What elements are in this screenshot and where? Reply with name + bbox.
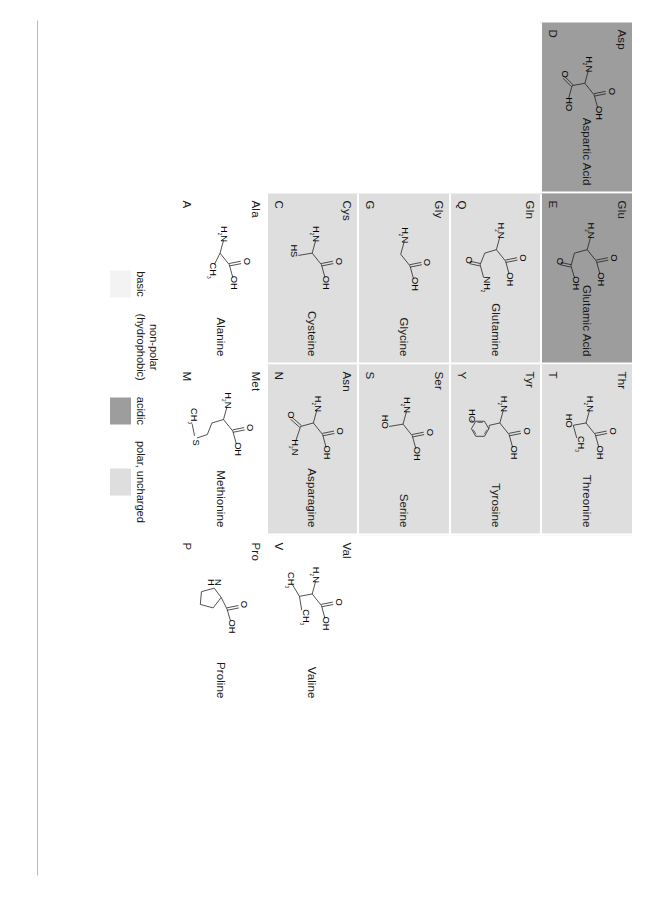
amino-acid-chart-sheet: AspDAspartic AcidH2NOOHOHOGluEGlutamic A… [0, 0, 650, 909]
amino-acid-cell-w[interactable]: TrpWTryptophanH2NOOHHN [172, 364, 174, 535]
svg-text:H2N: H2N [401, 397, 413, 413]
legend-swatch-acidic [110, 397, 131, 424]
svg-text:OH: OH [227, 619, 237, 633]
amino-acid-one-letter-code: T [547, 371, 559, 378]
amino-acid-cell-s[interactable]: SerSSerineH2NOOHHO [357, 364, 449, 535]
amino-acid-cell-p[interactable]: ProPProlineOOHNH [174, 535, 266, 706]
svg-text:H2N: H2N [311, 395, 323, 411]
amino-acid-full-name: Arginine [172, 826, 174, 869]
amino-acid-cell-h[interactable]: HisHHistidineH2NOOHNNH [172, 535, 174, 706]
amino-acid-cell-k[interactable]: LysKLysineH2NOOHH2N [170, 22, 172, 193]
amino-acid-cell-l[interactable]: LeuLLeucineH2NOOHCH3CH3 [172, 193, 174, 364]
amino-acid-cell-i[interactable]: IleIIsoleucineH2NOOHCH3CH3 [170, 193, 172, 364]
amino-acid-cell-a[interactable]: AlaAAlanineH2NOOHCH3 [174, 193, 266, 364]
svg-text:H2N: H2N [310, 566, 322, 582]
amino-acid-cell-c[interactable]: CysCCysteineH2NOOHHS [266, 193, 358, 364]
amino-acid-cell-r[interactable]: ArgRArginineH2NOOHNHNH2HN [172, 706, 174, 877]
legend-item-polar[interactable]: polar, uncharged [110, 440, 148, 522]
amino-acid-abbr: Met [250, 371, 262, 391]
amino-acid-cell-empty [174, 22, 266, 193]
category-legend: basicnon-polar (hydrophobic)acidicpolar,… [110, 270, 160, 522]
amino-acid-cell-d[interactable]: AspDAspartic AcidH2NOOHOHO [540, 22, 632, 193]
amino-acid-cell-q[interactable]: GlnQGlutamineH2NOOHONH2 [449, 193, 541, 364]
svg-text:OH: OH [321, 275, 331, 289]
amino-acid-full-name: Serine [398, 493, 410, 527]
svg-text:H2N: H2N [217, 226, 229, 242]
amino-acid-abbr: Thr [616, 371, 628, 389]
svg-text:HO: HO [564, 97, 574, 111]
amino-acid-cell-y[interactable]: TyrYTyrosineH2NOOHHO [449, 364, 541, 535]
svg-text:OH: OH [594, 105, 604, 119]
amino-acid-one-letter-code: P [181, 542, 193, 550]
molecular-structure-diagram: H2NOOHCH3 [178, 219, 264, 306]
svg-text:H2N: H2N [494, 222, 506, 238]
page-rule-divider [37, 20, 38, 875]
svg-text:O: O [519, 254, 529, 261]
svg-text:CH3: CH3 [574, 435, 586, 451]
svg-text:O: O [522, 427, 532, 434]
amino-acid-abbr: Glu [616, 200, 628, 219]
amino-acid-abbr: Ser [433, 371, 445, 390]
svg-text:OH: OH [506, 272, 516, 286]
legend-item-acidic[interactable]: acidic [110, 396, 148, 424]
svg-text:O: O [172, 112, 174, 124]
amino-acid-cell-empty [449, 706, 541, 877]
amino-acid-full-name: Valine [306, 666, 318, 698]
rotated-page-stage: AspDAspartic AcidH2NOOHOHOGluEGlutamic A… [0, 0, 650, 909]
amino-acid-cell-f[interactable]: PheFPhenylalanineH2NOOH [172, 22, 174, 193]
legend-swatch-polar [110, 468, 131, 495]
svg-text:OH: OH [412, 446, 422, 460]
svg-text:H: H [206, 579, 216, 586]
svg-text:H2N: H2N [398, 227, 410, 243]
amino-acid-cell-empty [357, 706, 449, 877]
amino-acid-cell-v[interactable]: ValVValineH2NOOHCH3CH3 [266, 535, 358, 706]
svg-text:O: O [560, 70, 570, 77]
molecular-structure-diagram: H2NOOHOH2N [270, 390, 356, 477]
amino-acid-full-name: Histidine [172, 653, 174, 698]
svg-text:OH: OH [509, 445, 519, 459]
amino-acid-cell-g[interactable]: GlyGGlycineH2NOOH [357, 193, 449, 364]
amino-acid-one-letter-code: Y [456, 371, 468, 379]
amino-acid-cell-m[interactable]: MetMMethionineH2NOOHSCH3 [174, 364, 266, 535]
amino-acid-abbr: Gln [524, 200, 536, 219]
amino-acid-full-name: Isoleucine [170, 303, 172, 356]
svg-text:O: O [335, 427, 345, 434]
svg-text:O: O [607, 87, 617, 94]
amino-acid-one-letter-code: D [547, 29, 559, 38]
amino-acid-cell-t[interactable]: ThrTThreonineH2NOOHHOCH3 [540, 364, 632, 535]
amino-acid-cell-n[interactable]: AsnNAsparagineH2NOOHOH2N [266, 364, 358, 535]
svg-text:H2N: H2N [584, 395, 596, 411]
amino-acid-one-letter-code: Q [456, 200, 468, 209]
molecular-structure-diagram: H2NOOHHO [361, 390, 447, 477]
amino-acid-abbr: Asp [616, 29, 628, 49]
svg-text:O: O [425, 428, 435, 435]
amino-acid-full-name: Tryptophan [172, 468, 174, 527]
svg-text:O: O [172, 623, 174, 635]
legend-label: acidic [135, 396, 148, 424]
amino-acid-cell-e[interactable]: GluEGlutamic AcidH2NOOHOOH [540, 193, 632, 364]
svg-text:O: O [245, 424, 255, 431]
svg-text:S: S [191, 439, 201, 445]
amino-acid-full-name: Threonine [581, 474, 593, 527]
svg-text:OH: OH [596, 272, 606, 286]
svg-text:O: O [608, 427, 618, 434]
svg-text:H2N: H2N [289, 439, 301, 455]
svg-text:H2N: H2N [221, 392, 233, 408]
amino-acid-cell-empty [449, 22, 541, 193]
amino-acid-abbr: Tyr [524, 371, 536, 388]
amino-acid-grid: AspDAspartic AcidH2NOOHOHOGluEGlutamic A… [174, 22, 632, 877]
amino-acid-full-name: Glutamine [490, 303, 502, 356]
svg-text:O: O [172, 279, 174, 291]
svg-text:CH3: CH3 [285, 572, 297, 588]
legend-item-basic[interactable]: basic [110, 270, 148, 297]
legend-swatch-basic [110, 270, 131, 297]
amino-acid-one-letter-code: A [181, 200, 193, 208]
legend-swatch-non-polar [110, 333, 131, 360]
legend-item-non-polar[interactable]: non-polar (hydrophobic) [110, 313, 160, 380]
amino-acid-full-name: Alanine [215, 317, 227, 356]
molecular-structure-diagram: H2NOOHSCH3 [178, 390, 264, 477]
svg-text:O: O [465, 256, 475, 263]
amino-acid-abbr: Val [341, 542, 353, 558]
svg-text:O: O [239, 600, 249, 607]
svg-text:OH: OH [410, 276, 420, 290]
